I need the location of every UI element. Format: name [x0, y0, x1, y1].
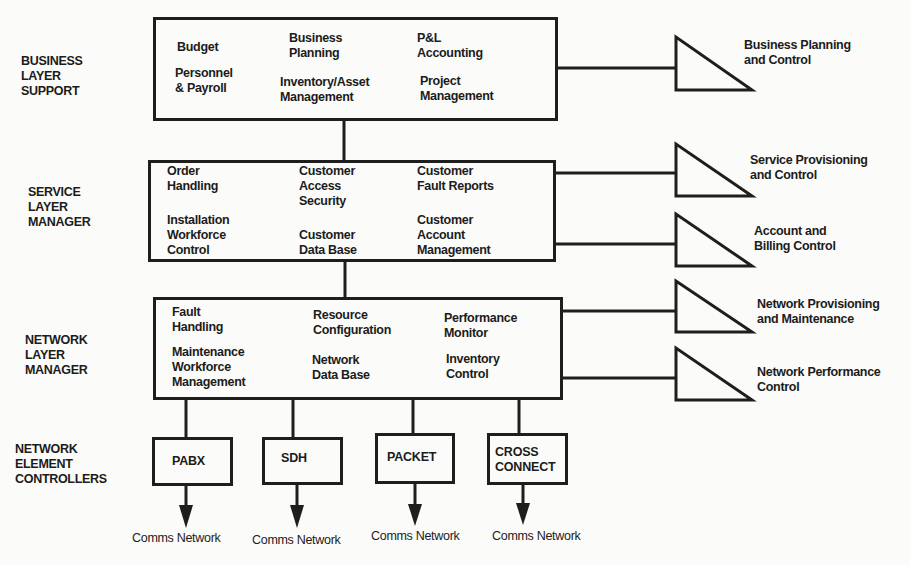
label-line: LAYER: [21, 69, 83, 84]
function-line: Customer: [299, 164, 355, 179]
comms-network-label: Comms Network: [492, 529, 580, 544]
function-project-management: Project Management: [420, 74, 493, 104]
function-line: Inventory/Asset: [280, 75, 369, 90]
function-customer-access-security: Customer Access Security: [299, 164, 355, 209]
function-pl-accounting: P&L Accounting: [417, 31, 483, 61]
function-customer-data-base: Customer Data Base: [299, 228, 357, 258]
function-budget: Budget: [177, 40, 218, 55]
function-line: Handling: [167, 179, 218, 194]
function-line: Budget: [177, 40, 218, 55]
interface-line: Network Performance: [757, 365, 881, 380]
function-inventory-control: Inventory Control: [446, 352, 500, 382]
function-order-handling: Order Handling: [167, 164, 218, 194]
function-line: Business: [289, 31, 342, 46]
function-line: Inventory: [446, 352, 500, 367]
interface-line: Account and: [754, 224, 836, 239]
function-line: Control: [167, 243, 229, 258]
function-customer-account-management: Customer Account Management: [417, 213, 490, 258]
function-installation-workforce-control: Installation Workforce Control: [167, 213, 229, 258]
function-line: Order: [167, 164, 218, 179]
comms-network-label: Comms Network: [132, 531, 220, 546]
function-line: Handling: [172, 320, 223, 335]
nec-box-packet: PACKET: [375, 433, 455, 484]
triangle-icon: [676, 37, 752, 90]
function-line: Maintenance: [172, 345, 245, 360]
interface-business-planning-control: Business Planning and Control: [744, 38, 851, 68]
interface-line: Billing Control: [754, 239, 836, 254]
interface-line: Service Provisioning: [750, 153, 868, 168]
triangle-icon: [676, 214, 752, 266]
function-business-planning: Business Planning: [289, 31, 342, 61]
comms-network-label: Comms Network: [252, 533, 340, 548]
function-line: P&L: [417, 31, 483, 46]
function-line: Accounting: [417, 46, 483, 61]
arrow-down-icon: [290, 505, 304, 528]
function-inventory-asset-management: Inventory/Asset Management: [280, 75, 369, 105]
nec-box-cross-connect: CROSS CONNECT: [487, 433, 568, 485]
function-line: & Payroll: [175, 81, 233, 96]
function-line: Workforce: [167, 228, 229, 243]
nec-label: SDH: [281, 451, 307, 466]
function-line: Customer: [417, 213, 490, 228]
function-line: Fault Reports: [417, 179, 494, 194]
function-line: Monitor: [444, 326, 517, 341]
function-line: Performance: [444, 311, 517, 326]
label-line: MANAGER: [28, 215, 90, 230]
layer-label-network: NETWORK LAYER MANAGER: [25, 333, 87, 378]
nec-box-pabx: PABX: [152, 437, 233, 486]
label-line: LAYER: [28, 200, 90, 215]
arrow-down-icon: [179, 505, 193, 528]
function-resource-configuration: Resource Configuration: [313, 308, 391, 338]
function-line: Personnel: [175, 66, 233, 81]
nec-label: PACKET: [387, 450, 436, 465]
interface-line: and Maintenance: [757, 312, 880, 327]
function-personnel-payroll: Personnel & Payroll: [175, 66, 233, 96]
interface-line: Control: [757, 380, 881, 395]
function-line: Customer: [299, 228, 357, 243]
triangle-icon: [676, 144, 752, 196]
function-line: Management: [280, 90, 369, 105]
label-line: NETWORK: [25, 333, 87, 348]
layer-label-nec: NETWORK ELEMENT CONTROLLERS: [15, 442, 107, 487]
nec-label: PABX: [172, 454, 205, 469]
label-line: LAYER: [25, 348, 87, 363]
label-line: SERVICE: [28, 185, 90, 200]
function-line: Planning: [289, 46, 342, 61]
label-line: SUPPORT: [21, 84, 83, 99]
label-line: CONTROLLERS: [15, 472, 107, 487]
function-line: Security: [299, 194, 355, 209]
label-line: ELEMENT: [15, 457, 107, 472]
function-line: Fault: [172, 305, 223, 320]
triangle-icon: [676, 348, 752, 400]
function-network-data-base: Network Data Base: [312, 353, 370, 383]
function-line: Data Base: [312, 368, 370, 383]
function-performance-monitor: Performance Monitor: [444, 311, 517, 341]
function-line: Resource: [313, 308, 391, 323]
function-line: Configuration: [313, 323, 391, 338]
triangle-icon: [676, 281, 752, 332]
interface-network-performance-control: Network Performance Control: [757, 365, 881, 395]
label-line: MANAGER: [25, 363, 87, 378]
function-line: Data Base: [299, 243, 357, 258]
function-line: Control: [446, 367, 500, 382]
interface-line: Business Planning: [744, 38, 851, 53]
function-line: Installation: [167, 213, 229, 228]
function-line: Management: [420, 89, 493, 104]
layer-label-business: BUSINESS LAYER SUPPORT: [21, 54, 83, 99]
layer-label-service: SERVICE LAYER MANAGER: [28, 185, 90, 230]
interface-line: and Control: [750, 168, 868, 183]
interface-line: and Control: [744, 53, 851, 68]
arrow-down-icon: [408, 504, 422, 526]
function-fault-handling: Fault Handling: [172, 305, 223, 335]
function-line: Project: [420, 74, 493, 89]
interface-account-billing-control: Account and Billing Control: [754, 224, 836, 254]
arrow-down-icon: [516, 503, 530, 525]
nec-label: CROSS CONNECT: [495, 445, 555, 475]
interface-service-provisioning-control: Service Provisioning and Control: [750, 153, 868, 183]
function-maintenance-workforce-management: Maintenance Workforce Management: [172, 345, 245, 390]
comms-network-label: Comms Network: [371, 529, 459, 544]
interface-network-provisioning-maintenance: Network Provisioning and Maintenance: [757, 297, 880, 327]
function-line: Access: [299, 179, 355, 194]
function-customer-fault-reports: Customer Fault Reports: [417, 164, 494, 194]
label-line: BUSINESS: [21, 54, 83, 69]
